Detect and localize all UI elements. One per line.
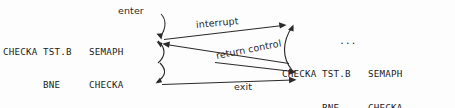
left-upper-brace — [158, 41, 164, 63]
return-control-arrowhead — [162, 42, 170, 48]
process-a-code-listing: CHECKA TST.B SEMAPH BNE CHECKA MOVE.B #1… — [3, 24, 141, 108]
return-control-label: return control — [215, 37, 282, 60]
exit-label: exit — [234, 81, 252, 92]
code-line: CHECKA TST.B SEMAPH — [282, 68, 420, 79]
enter-arrow-path — [160, 14, 165, 37]
left-brace-arrowhead — [157, 42, 163, 48]
enter-label: enter — [118, 5, 144, 16]
code-line: CHECKA TST.B SEMAPH — [3, 46, 141, 57]
process-b-code-listing: ... CHECKA TST.B SEMAPH BNE CHECKA MOVE.… — [282, 13, 420, 108]
semaphore-control-flow-figure: CHECKA TST.B SEMAPH BNE CHECKA MOVE.B #1… — [0, 0, 455, 108]
code-line: BNE CHECKA — [282, 102, 420, 108]
code-line: ... — [282, 35, 420, 46]
code-line: BNE CHECKA — [3, 79, 141, 90]
left-lower-brace — [157, 63, 165, 82]
enter-arrowhead — [157, 33, 163, 39]
interrupt-arrow-path — [164, 26, 283, 40]
interrupt-label: interrupt — [196, 15, 239, 30]
left-lower-arrowhead — [156, 78, 163, 84]
exit-arrow-path — [162, 80, 293, 85]
